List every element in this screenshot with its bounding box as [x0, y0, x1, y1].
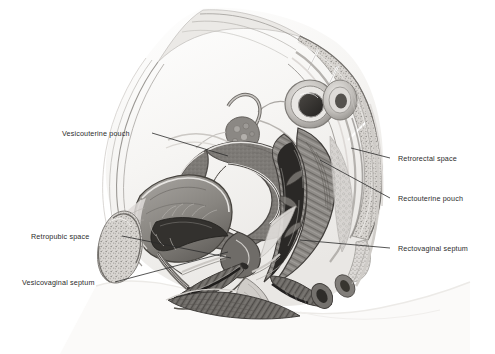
label-vesicovaginal-septum: Vesicovaginal septum [22, 278, 95, 287]
anatomy-figure [0, 0, 495, 354]
label-vesicouterine-pouch: Vesicouterine pouch [62, 129, 130, 138]
label-rectovaginal-septum: Rectovaginal septum [398, 244, 468, 253]
label-retropubic-space: Retropubic space [31, 232, 89, 241]
anatomy-illustration [0, 0, 495, 354]
label-retrorectal-space: Retrorectal space [398, 154, 457, 163]
label-rectouterine-pouch: Rectouterine pouch [398, 194, 463, 203]
